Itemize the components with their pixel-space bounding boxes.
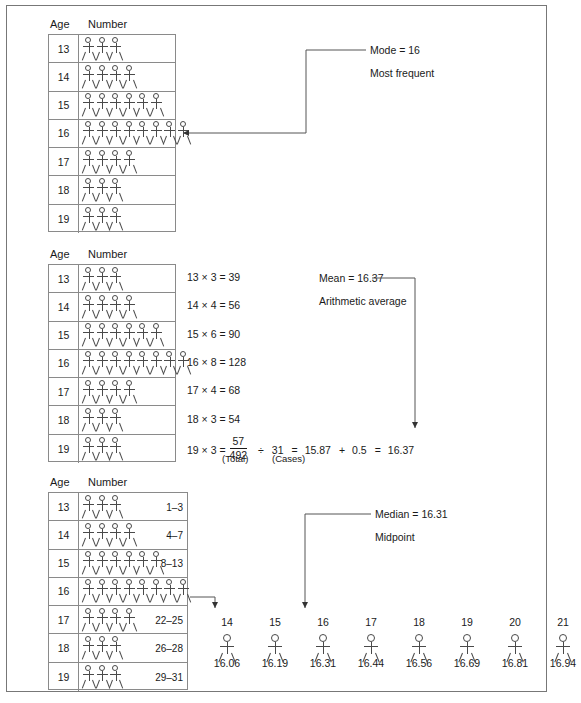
callout-mean: Mean = 16.37 Arithmetic average [319,272,407,307]
figure-group [82,379,136,405]
age-cell: 15 [49,322,79,349]
stick-figure-icon [82,635,96,661]
figure-cell [79,92,175,119]
figure-cell [79,148,175,175]
age-cell: 14 [49,521,79,548]
table-row: 19 [49,435,175,463]
stick-figure-icon [109,350,123,376]
stick-figure-icon [82,607,96,633]
callout-mean-subtitle: Arithmetic average [319,295,407,307]
number-line-position: 16 [317,616,329,628]
figure-group [82,64,136,90]
stick-figure-icon [82,664,96,690]
number-line-position: 19 [461,616,473,628]
stick-figure-icon [109,266,123,292]
case-range-label: 8–13 [161,558,183,569]
figure-cell: 8–13 [79,550,187,577]
number-line-value: 16.94 [550,657,576,669]
stick-figure-icon [96,92,110,118]
stick-figure-icon [82,436,96,462]
stick-figure-icon [123,578,137,604]
stick-figure-icon [82,322,96,348]
stick-figure-icon [96,578,110,604]
stick-figure-icon [265,633,285,653]
stick-figure-icon [313,633,333,653]
table-row: 15 [49,322,175,350]
stick-figure-icon [109,206,123,232]
stick-figure-icon [109,664,123,690]
table-row: 158–13 [49,550,187,578]
number-line-position: 18 [413,616,425,628]
stick-figure-icon [217,633,237,653]
figure-group [82,149,136,175]
figure-group [82,36,123,62]
number-line-position: 20 [509,616,521,628]
stick-figure-icon [96,120,110,146]
stick-figure-icon [150,322,164,348]
stick-figure-icon [82,550,96,576]
figure-group [82,436,123,462]
mean-equation: 17 × 4 = 68 [187,384,240,396]
figure-group [82,607,136,633]
stick-figure-icon [82,294,96,320]
figure-group [82,294,136,320]
age-cell: 18 [49,634,79,661]
mean-equation: 16 × 8 = 128 [187,356,246,368]
stick-figure-icon [150,578,164,604]
stick-figure-icon [150,120,164,146]
number-line-position: 17 [365,616,377,628]
stick-figure-icon [109,149,123,175]
stick-figure-icon [109,550,123,576]
figure-cell [79,35,175,62]
number-line-column: 2116.94 [539,616,581,669]
age-cell: 14 [49,63,79,90]
mean-result-value: 16.37 [388,444,414,456]
stick-figure-icon [96,149,110,175]
number-line-value: 16.81 [502,657,528,669]
stick-figure-icon [136,92,150,118]
number-line-column: 1516.19 [251,616,299,669]
stick-figure-icon [109,120,123,146]
figure-group [82,664,123,690]
stick-figure-icon [123,550,137,576]
number-line-column: 1416.06 [203,616,251,669]
stick-figure-icon [123,522,137,548]
age-cell: 16 [49,578,79,605]
callout-mode-subtitle: Most frequent [370,67,434,79]
stick-figure-icon [361,633,381,653]
table-row: 17 [49,148,175,176]
figure-cell: 4–7 [79,521,187,548]
stick-figure-icon [109,494,123,520]
stick-figure-icon [150,92,164,118]
age-cell: 15 [49,92,79,119]
stick-figure-icon [177,120,191,146]
figure-cell [79,120,190,147]
mean-final-lead: 19 × 3 = [187,444,226,456]
stick-figure-icon [96,36,110,62]
age-cell: 17 [49,606,79,633]
stick-figure-icon [96,322,110,348]
stick-figure-icon [96,294,110,320]
stick-figure-icon [82,266,96,292]
figure-cell [79,350,190,377]
figure-cell [79,406,175,433]
figure-group [82,206,123,232]
stick-figure-icon [150,350,164,376]
stick-figure-icon [109,64,123,90]
number-line-value: 16.19 [262,657,288,669]
figure-cell: 26–28 [79,634,187,661]
table-median: 131–3144–7158–13161722–251826–281929–31 [48,492,188,690]
stick-figure-icon [457,633,477,653]
table-row: 19 [49,205,175,233]
stick-figure-icon [177,578,191,604]
stick-figure-icon [136,350,150,376]
number-line-column: 1716.44 [347,616,395,669]
stick-figure-icon [109,294,123,320]
mean-equation: 18 × 3 = 54 [187,413,240,425]
stick-figure-icon [96,635,110,661]
number-line-position: 15 [269,616,281,628]
figure-group [82,177,123,203]
stick-figure-icon [109,322,123,348]
stick-figure-icon [96,550,110,576]
age-cell: 15 [49,550,79,577]
